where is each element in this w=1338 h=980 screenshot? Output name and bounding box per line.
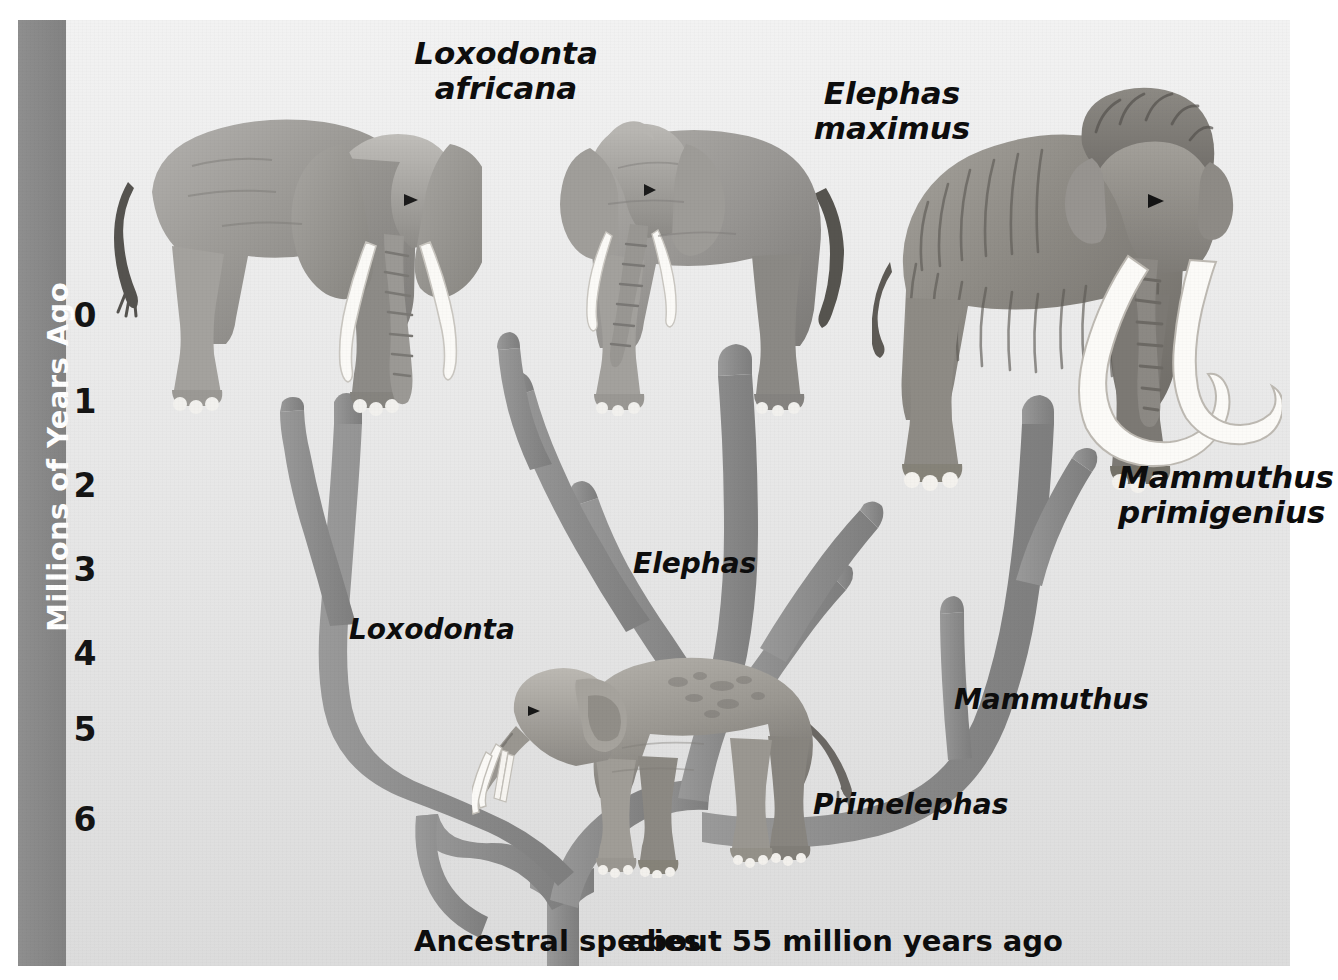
- tick-label-0: 0: [68, 296, 102, 335]
- loxodonta-africana-illustration: [112, 96, 482, 426]
- tick-label-3: 3: [68, 550, 102, 589]
- species-label-mammuthus-primigenius: Mammuthus primigenius: [1118, 460, 1338, 529]
- tick-label-4: 4: [68, 634, 102, 673]
- tick-label-2: 2: [68, 466, 102, 505]
- tick-label-1: 1: [68, 382, 102, 421]
- tick-label-5: 5: [68, 710, 102, 749]
- y-axis-band: Millions of Years Ago: [18, 20, 66, 966]
- species-label-loxodonta-africana: Loxodonta africana: [356, 36, 656, 105]
- species-label-line2: maximus: [814, 110, 971, 146]
- species-label-line1: Loxodonta: [414, 35, 598, 71]
- genus-label-elephas: Elephas: [633, 548, 756, 579]
- species-label-line2: primigenius: [1118, 494, 1325, 530]
- genus-label-mammuthus: Mammuthus: [954, 684, 1149, 715]
- tick-label-6: 6: [68, 800, 102, 839]
- genus-label-loxodonta: Loxodonta: [349, 614, 515, 645]
- genus-label-primelephas: Primelephas: [813, 789, 1008, 820]
- caption-age: about 55 million years ago: [627, 925, 1063, 957]
- elephas-maximus-illustration: [548, 108, 848, 416]
- primelephas-illustration: [472, 648, 852, 878]
- species-label-elephas-maximus: Elephas maximus: [742, 76, 1042, 145]
- species-label-line1: Mammuthus: [1118, 459, 1334, 495]
- species-label-line1: Elephas: [824, 75, 960, 111]
- species-label-line2: africana: [435, 70, 578, 106]
